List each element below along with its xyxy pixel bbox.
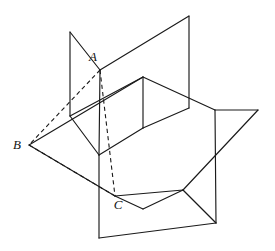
plane-tall-bottom-edge xyxy=(99,128,143,155)
geometry-figure: A B C xyxy=(0,0,275,251)
segment-a-b xyxy=(29,70,100,145)
plane-horizontal-right-tip-edge xyxy=(183,110,258,190)
plane-horizontal-back-left-edge xyxy=(29,77,143,145)
plane-bottom-lower-edge xyxy=(99,223,216,238)
figure-canvas: A B C xyxy=(0,0,275,251)
plane-back-left-inner-edge xyxy=(70,77,143,116)
vertex-label-c: C xyxy=(114,197,123,212)
plane-tall-left-edge xyxy=(99,70,100,155)
plane-back-left-bottom-edge xyxy=(70,116,99,155)
vertex-label-a: A xyxy=(88,49,97,64)
plane-front-right-right-edge xyxy=(215,110,216,223)
plane-front-right-bottom-edge xyxy=(183,190,216,223)
plane-tall-top-edge xyxy=(100,16,189,70)
vertex-label-b: B xyxy=(13,137,21,152)
segment-a-c xyxy=(100,70,115,196)
plane-tall-lower-right-edge xyxy=(143,108,189,128)
plane-front-right-top-edge xyxy=(143,77,215,110)
